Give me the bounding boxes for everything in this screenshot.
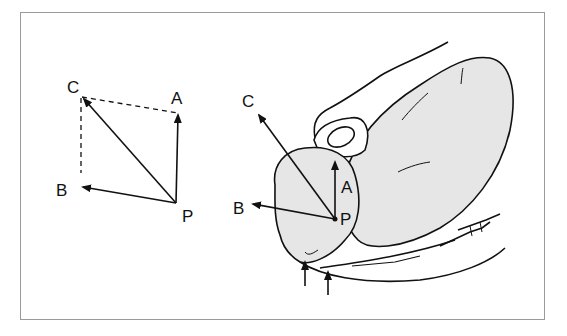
label-c-right: C — [242, 92, 254, 111]
diagram-canvas: C A B P C A B P — [0, 0, 567, 336]
label-a-right: A — [341, 178, 353, 197]
point-p — [333, 217, 338, 222]
label-b: B — [56, 181, 67, 200]
label-p-right: P — [340, 210, 351, 229]
label-c: C — [67, 78, 79, 97]
vector-c-arrow — [84, 99, 176, 203]
label-a: A — [171, 89, 183, 108]
anatomical-drawing — [275, 42, 513, 281]
label-b-right: B — [233, 199, 244, 218]
vector-b-arrow — [83, 187, 176, 203]
vector-a-arrow — [176, 115, 178, 203]
left-vector-diagram: C A B P — [56, 78, 193, 226]
label-p: P — [182, 207, 193, 226]
